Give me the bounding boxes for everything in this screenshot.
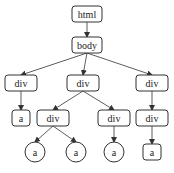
caption-remnant [0,163,174,173]
node-label: div [47,113,60,124]
node-div6: div [136,110,168,126]
node-div3: div [136,75,168,91]
node-label: a [19,113,24,124]
node-label: div [15,78,28,89]
node-a1: a [12,110,30,126]
node-a2: a [25,142,45,162]
node-label: div [146,113,159,124]
edge-body-div1 [21,53,87,75]
node-div5: div [98,110,130,126]
nodes: htmlbodydivdivdivadivdivdivaaaa [5,6,168,162]
node-body: body [72,37,102,53]
node-div1: div [5,75,37,91]
edge-div2-div4 [53,91,83,110]
node-label: div [77,78,90,89]
edge-body-div2 [83,53,87,75]
node-div4: div [37,110,69,126]
edge-div4-a3 [53,126,76,142]
dom-tree-diagram: htmlbodydivdivdivadivdivdivaaaa [0,0,174,173]
node-label: html [78,9,97,20]
node-a3: a [66,142,86,162]
node-label: a [112,147,117,158]
node-label: div [108,113,121,124]
node-a4: a [104,142,124,162]
node-label: a [33,147,38,158]
node-a5: a [143,144,161,160]
node-div2: div [67,75,99,91]
node-label: div [146,78,159,89]
node-label: body [77,40,97,51]
node-label: a [74,147,79,158]
edge-div2-div5 [83,91,114,110]
edge-body-div3 [87,53,152,75]
node-html: html [72,6,102,22]
edge-div4-a2 [35,126,53,142]
node-label: a [150,147,155,158]
